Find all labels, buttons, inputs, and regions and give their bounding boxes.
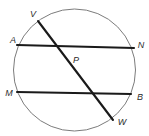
chord-MB bbox=[17, 92, 131, 94]
point-label-V: V bbox=[30, 10, 36, 19]
chord-AN bbox=[17, 45, 134, 48]
point-label-W: W bbox=[118, 118, 127, 127]
point-label-B: B bbox=[137, 93, 143, 102]
chord-layer bbox=[17, 21, 134, 120]
point-label-P: P bbox=[73, 56, 79, 65]
point-label-A: A bbox=[10, 36, 16, 45]
point-label-N: N bbox=[138, 41, 145, 50]
point-label-M: M bbox=[5, 89, 13, 98]
chord-VW bbox=[38, 21, 113, 120]
geometry-figure: VANPMBW bbox=[0, 0, 149, 136]
